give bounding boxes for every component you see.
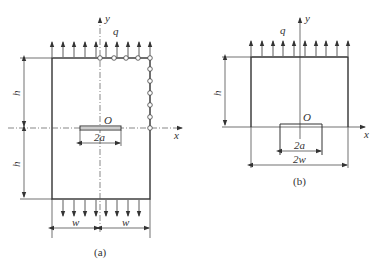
crack-length-label-a: 2a	[94, 131, 106, 143]
load-arrows-top-b	[251, 41, 348, 56]
y-axis-label-a: y	[104, 12, 110, 24]
caption-b: (b)	[293, 175, 306, 188]
origin-label-a: O	[104, 114, 112, 126]
h-label-bottom-a: h	[10, 161, 22, 167]
diagram-canvas: y q O x 2a h h w w (a)	[0, 0, 378, 267]
load-label-b: q	[280, 24, 286, 36]
w-label-left-a: w	[72, 216, 80, 228]
x-axis-label-a: x	[173, 129, 179, 141]
w-dimension-a	[52, 199, 150, 238]
h-dimension-b	[222, 57, 251, 125]
figure-b: y q O x 2a 2w h (b)	[211, 12, 369, 188]
crack-length-label-b: 2a	[294, 139, 306, 151]
h-dimension-a	[20, 58, 52, 199]
caption-a: (a)	[94, 246, 107, 259]
x-axis-label-b: x	[363, 128, 369, 140]
total-width-label-b: 2w	[293, 153, 307, 165]
origin-label-b: O	[303, 111, 311, 123]
load-arrows-bottom-a	[63, 200, 139, 216]
load-label-a: q	[113, 25, 119, 37]
w-label-right-a: w	[122, 216, 130, 228]
plate-b	[251, 57, 348, 127]
load-arrows-top-a	[52, 42, 150, 57]
y-axis-label-b: y	[304, 12, 310, 24]
h-label-b: h	[211, 90, 223, 96]
h-label-top-a: h	[10, 90, 22, 96]
figure-a: y q O x 2a h h w w (a)	[8, 12, 182, 259]
